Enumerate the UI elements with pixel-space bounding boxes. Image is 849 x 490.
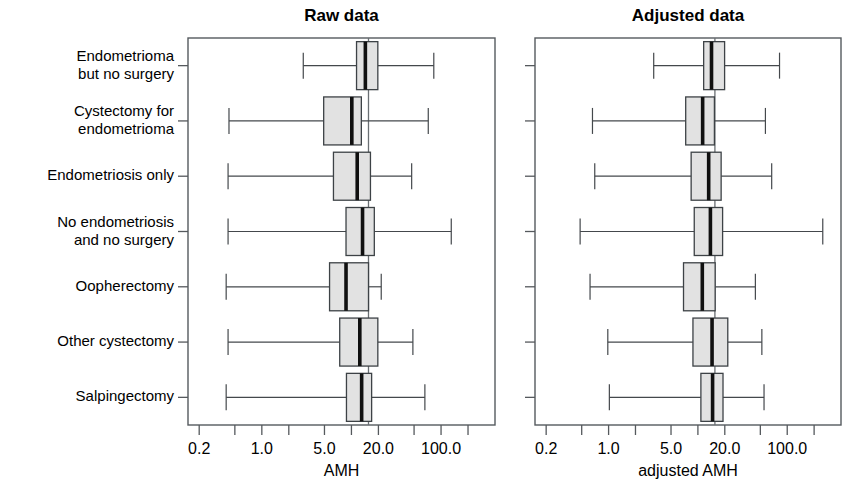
- x-tick-label: 100.0: [747, 440, 827, 458]
- category-label: Oopherectomy: [4, 277, 174, 295]
- box-iqr: [357, 42, 378, 90]
- boxplot-box: [229, 97, 428, 145]
- x-tick-label: 100.0: [401, 440, 481, 458]
- category-label-line: Endometrioma: [4, 47, 174, 65]
- boxplot-box: [595, 152, 772, 200]
- boxplot-box: [226, 373, 425, 421]
- boxplot-figure: Raw data Adjusted data Endometriomabut n…: [0, 0, 849, 490]
- boxplot-box: [608, 318, 762, 366]
- category-label-line: Salpingectomy: [4, 387, 174, 405]
- category-label-line: Endometriosis only: [4, 166, 174, 184]
- box-iqr: [324, 97, 362, 145]
- box-iqr: [704, 42, 725, 90]
- category-label: Cystectomy forendometrioma: [4, 102, 174, 138]
- boxplot-box: [654, 42, 780, 90]
- boxplot-box: [228, 152, 412, 200]
- category-label: No endometriosisand no surgery: [4, 213, 174, 249]
- category-label-line: and no surgery: [4, 231, 174, 249]
- box-iqr: [686, 97, 715, 145]
- category-label-line: No endometriosis: [4, 213, 174, 231]
- box-iqr: [691, 152, 721, 200]
- box-iqr: [333, 152, 370, 200]
- box-iqr: [346, 208, 374, 256]
- box-iqr: [330, 263, 369, 311]
- boxplot-box: [303, 42, 434, 90]
- category-label: Endometriomabut no surgery: [4, 47, 174, 83]
- category-label-line: Cystectomy for: [4, 102, 174, 120]
- category-label-line: Oopherectomy: [4, 277, 174, 295]
- category-label-line: but no surgery: [4, 65, 174, 83]
- category-label-line: Other cystectomy: [4, 332, 174, 350]
- axis-title-raw: AMH: [188, 462, 495, 480]
- boxplot-box: [609, 373, 764, 421]
- category-label: Salpingectomy: [4, 387, 174, 405]
- boxplot-box: [226, 263, 381, 311]
- category-label-line: endometrioma: [4, 120, 174, 138]
- category-label: Endometriosis only: [4, 166, 174, 184]
- boxplot-box: [580, 208, 823, 256]
- boxplot-box: [228, 318, 413, 366]
- box-iqr: [694, 208, 722, 256]
- box-iqr: [346, 373, 371, 421]
- category-label: Other cystectomy: [4, 332, 174, 350]
- box-iqr: [684, 263, 716, 311]
- boxplot-box: [592, 97, 765, 145]
- boxplot-box: [590, 263, 755, 311]
- axis-title-adjusted: adjusted AMH: [535, 462, 841, 480]
- boxplot-box: [228, 208, 451, 256]
